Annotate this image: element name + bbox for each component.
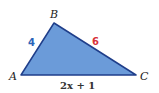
vertex-label-c: C: [140, 71, 148, 82]
side-bc-label: 6: [92, 36, 99, 47]
vertex-label-b: B: [50, 9, 58, 20]
side-ab-label: 4: [28, 37, 35, 48]
side-ac-label: 2x + 1: [60, 80, 95, 91]
triangle-abc: [21, 23, 136, 75]
vertex-label-a: A: [9, 71, 17, 82]
